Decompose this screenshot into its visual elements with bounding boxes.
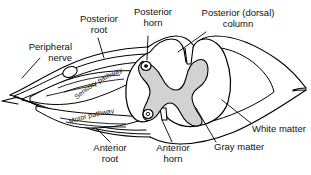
dura-right-tip (293, 88, 306, 91)
posterior-horn-node-core (144, 64, 148, 68)
label-anterior-root-line1: Anterior (78, 143, 142, 154)
label-posterior-horn: Posterior horn (120, 7, 186, 28)
label-posterior-horn-line2: horn (120, 18, 186, 29)
leader-posterior-root (98, 38, 104, 58)
label-posterior-column-line1: Posterior (dorsal) (186, 8, 290, 19)
leader-anterior-horn (162, 120, 172, 142)
label-gray-matter: Gray matter (214, 142, 276, 153)
label-peripheral-nerve: Peripheral nerve (2, 42, 72, 63)
label-peripheral-nerve-line2: nerve (2, 53, 72, 64)
label-anterior-horn-line2: horn (142, 154, 204, 165)
label-white-matter: White matter (252, 124, 311, 135)
anatomical-diagram-figure: Sensory pathway Motor pathway Peripheral… (0, 0, 311, 175)
nerve-distal-tip (2, 97, 18, 104)
label-posterior-column-line2: column (186, 19, 290, 30)
label-anterior-root-line2: root (78, 154, 142, 165)
label-gray-matter-line1: Gray matter (214, 142, 276, 153)
label-white-matter-line1: White matter (252, 124, 311, 135)
anterior-horn-node-core (146, 112, 150, 115)
posterior-median-sulcus (185, 48, 193, 64)
label-peripheral-nerve-line1: Peripheral (2, 42, 72, 53)
label-anterior-horn: Anterior horn (142, 143, 204, 164)
label-anterior-horn-line1: Anterior (142, 143, 204, 154)
label-anterior-root: Anterior root (78, 143, 142, 164)
label-posterior-horn-line1: Posterior (120, 7, 186, 18)
label-posterior-column: Posterior (dorsal) column (186, 8, 290, 29)
leader-white-matter (222, 100, 252, 124)
